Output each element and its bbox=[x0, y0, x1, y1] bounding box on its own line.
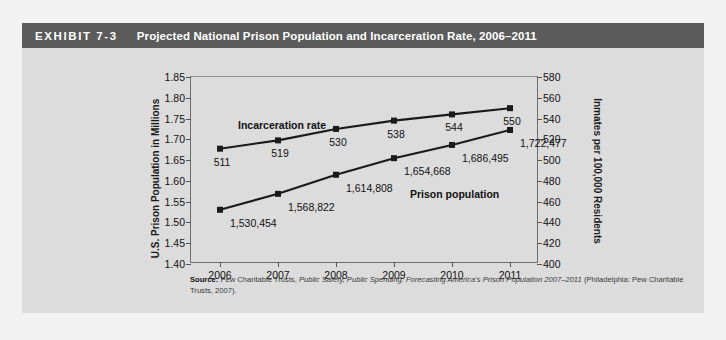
point-value-label: 544 bbox=[445, 121, 463, 133]
page-background: EXHIBIT 7-3 Projected National Prison Po… bbox=[0, 0, 726, 340]
prison-population-marker bbox=[333, 172, 339, 178]
source-title-italic: Public Safety, Public Spending: Forecast… bbox=[299, 275, 582, 284]
source-prefix: Source: bbox=[190, 275, 218, 284]
source-note: Source: Pew Charitable Trusts, Public Sa… bbox=[190, 274, 690, 296]
data-lines bbox=[191, 77, 539, 264]
point-value-label: 1,654,668 bbox=[404, 165, 451, 177]
prison-population-marker bbox=[507, 127, 513, 133]
point-value-label: 1,530,454 bbox=[230, 217, 277, 229]
plot-area: U.S. Prison Population in Millions Inmat… bbox=[190, 76, 538, 263]
exhibit-body-panel: U.S. Prison Population in Millions Inmat… bbox=[22, 48, 704, 313]
incarceration-rate-marker bbox=[449, 111, 455, 117]
exhibit-title: Projected National Prison Population and… bbox=[137, 30, 537, 42]
right-axis-title: Inmates per 100,000 Residents bbox=[590, 77, 606, 265]
incarceration-rate-marker bbox=[507, 105, 513, 111]
incarceration-rate-marker bbox=[333, 126, 339, 132]
incarceration-rate-marker bbox=[275, 137, 281, 143]
prison-population-marker bbox=[275, 191, 281, 197]
point-value-label: 538 bbox=[387, 128, 405, 140]
chart-container: U.S. Prison Population in Millions Inmat… bbox=[22, 48, 704, 313]
point-value-label: 1,614,808 bbox=[346, 182, 393, 194]
left-tick-mark bbox=[186, 264, 191, 265]
exhibit-header-bar: EXHIBIT 7-3 Projected National Prison Po… bbox=[22, 23, 704, 48]
exhibit-card: EXHIBIT 7-3 Projected National Prison Po… bbox=[22, 23, 704, 313]
point-value-label: 550 bbox=[503, 115, 521, 127]
prison-population-marker bbox=[217, 207, 223, 213]
left-axis-title: U.S. Prison Population in Millions bbox=[147, 85, 163, 272]
point-value-label: 519 bbox=[271, 147, 289, 159]
point-value-label: 1,568,822 bbox=[288, 201, 335, 213]
point-value-label: 1,722,477 bbox=[520, 137, 567, 149]
point-value-label: 1,686,495 bbox=[462, 152, 509, 164]
right-tick-mark bbox=[537, 264, 542, 265]
exhibit-number-label: EXHIBIT 7-3 bbox=[35, 30, 118, 42]
series-label-prison-population: Prison population bbox=[410, 188, 499, 200]
prison-population-marker bbox=[449, 142, 455, 148]
incarceration-rate-marker bbox=[217, 146, 223, 152]
prison-population-marker bbox=[391, 155, 397, 161]
series-label-incarceration-rate: Incarceration rate bbox=[238, 119, 326, 131]
point-value-label: 511 bbox=[214, 156, 231, 168]
point-value-label: 530 bbox=[329, 136, 347, 148]
source-text-part1: Pew Charitable Trusts, bbox=[218, 275, 299, 284]
incarceration-rate-marker bbox=[391, 118, 397, 124]
